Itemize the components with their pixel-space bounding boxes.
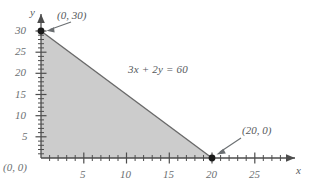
line-equation-label: 3x + 2y = 60 xyxy=(128,64,188,75)
y-intercept-callout-arrow xyxy=(47,22,72,33)
y-tick-label-25: 25 xyxy=(15,46,26,57)
y-tick-label-15: 15 xyxy=(15,89,26,100)
x-intercept-callout-arrow xyxy=(217,138,242,154)
origin-label: (0, 0) xyxy=(3,162,27,173)
y-tick-label-20: 20 xyxy=(15,67,26,78)
y-axis-arrowhead xyxy=(37,14,45,23)
x-tick-label-15: 15 xyxy=(163,169,174,180)
y-tick-label-5: 5 xyxy=(22,131,28,142)
point-marker-x-intercept xyxy=(209,155,216,162)
x-axis-label: x xyxy=(296,165,301,176)
x-tick-label-20: 20 xyxy=(206,169,217,180)
y-axis-label: y xyxy=(30,7,35,18)
y-tick-label-30: 30 xyxy=(15,25,26,36)
x-axis-arrowhead xyxy=(286,154,295,162)
x-tick-label-10: 10 xyxy=(120,169,131,180)
plot-svg xyxy=(0,0,311,190)
x-tick-label-25: 25 xyxy=(249,169,260,180)
x-tick-label-5: 5 xyxy=(80,169,86,180)
coordinate-plane-figure: 30 25 20 15 10 5 5 10 15 20 25 y x (0, 0… xyxy=(0,0,311,190)
x-intercept-label: (20, 0) xyxy=(242,125,271,136)
y-intercept-label: (0, 30) xyxy=(57,10,86,21)
point-marker-y-intercept xyxy=(38,28,45,35)
y-tick-label-10: 10 xyxy=(15,110,26,121)
